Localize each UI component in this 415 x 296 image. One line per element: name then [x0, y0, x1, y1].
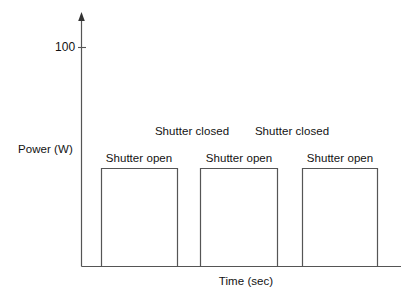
annotation-shutter-open-3: Shutter open	[307, 152, 373, 165]
bar-shutter-open-2	[201, 169, 278, 267]
annotation-shutter-closed-2: Shutter closed	[255, 125, 329, 138]
x-axis-title: Time (sec)	[219, 275, 273, 288]
y-axis-title: Power (W)	[18, 143, 73, 156]
annotation-shutter-open-1: Shutter open	[106, 152, 172, 165]
annotation-shutter-open-2: Shutter open	[206, 152, 272, 165]
power-vs-time-chart: 100 Power (W) Time (sec) Shutter closed …	[0, 0, 415, 296]
annotation-shutter-closed-1: Shutter closed	[155, 125, 229, 138]
y-tick-label-100: 100	[55, 41, 75, 54]
bar-shutter-open-1	[102, 169, 178, 267]
y-axis	[78, 12, 85, 267]
y-axis-arrow-icon	[78, 12, 85, 21]
bar-shutter-open-3	[303, 169, 378, 267]
